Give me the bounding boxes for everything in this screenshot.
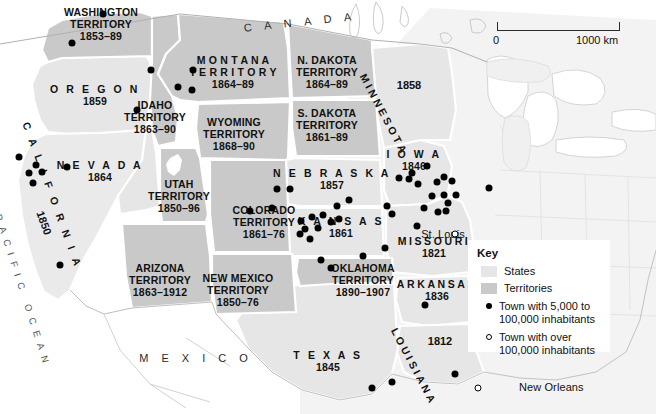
town-dot-small <box>443 208 450 215</box>
town-dot-small <box>57 262 64 269</box>
town-dot-small <box>320 212 327 219</box>
key-label-large-town: Town with over 100,000 inhabitants <box>499 331 602 358</box>
town-dot-small <box>328 265 335 272</box>
town-dot-small <box>429 193 436 200</box>
town-dot-large <box>475 385 482 392</box>
key-item-territories: Territories <box>477 282 602 295</box>
region-washington-territory <box>42 12 152 62</box>
town-dot-small <box>389 379 396 386</box>
town-dot-small <box>148 67 155 74</box>
town-dot-small <box>269 205 276 212</box>
key-item-states: States <box>477 265 602 278</box>
town-dot-small <box>307 236 314 243</box>
region-wyoming-territory <box>196 102 290 160</box>
key-title: Key <box>477 247 602 259</box>
town-dot-small <box>64 164 71 171</box>
region-nebraska <box>286 158 382 206</box>
region-minnesota <box>372 44 456 148</box>
town-dot-small <box>382 245 389 252</box>
key-label-small-town: Town with 5,000 to 100,000 inhabitants <box>499 300 602 327</box>
town-dot-small <box>406 176 413 183</box>
region-sdakota-territory <box>292 100 380 156</box>
town-dot-small <box>441 174 448 181</box>
town-dot-small <box>449 178 456 185</box>
town-dot-small <box>298 218 305 225</box>
region-colorado-territory <box>210 160 290 252</box>
town-dot-small <box>69 40 76 47</box>
region-missouri <box>386 196 474 276</box>
town-dot-small <box>415 181 422 188</box>
town-dot-small <box>16 154 23 161</box>
region-newmexico-territory <box>212 254 296 314</box>
town-dot-large <box>452 231 459 238</box>
town-dot-small <box>414 223 421 230</box>
town-dot-small <box>274 186 281 193</box>
town-dot-small <box>441 192 448 199</box>
town-dot-small <box>409 170 416 177</box>
town-dot-small <box>33 162 40 169</box>
region-arizona-territory <box>122 224 212 308</box>
region-arkansas <box>396 276 472 326</box>
region-oregon <box>32 56 152 134</box>
town-dot-small <box>396 175 403 182</box>
key-item-large-town: Town with over 100,000 inhabitants <box>477 331 602 358</box>
town-dot-small <box>346 197 353 204</box>
town-dot-small <box>421 205 428 212</box>
town-dot-small <box>318 257 325 264</box>
town-dot-small <box>26 170 33 177</box>
town-dot-small <box>247 208 254 215</box>
town-dot-small <box>309 214 316 221</box>
states-swatch-icon <box>481 266 497 277</box>
key-label-states: States <box>504 265 535 278</box>
town-dot-small <box>389 211 396 218</box>
key-item-small-town: Town with 5,000 to 100,000 inhabitants <box>477 300 602 327</box>
historical-map: 0 1000 km WASHINGTONTERRITORY1853–89O R … <box>0 0 656 414</box>
town-dot-small <box>453 192 460 199</box>
scale-end-label: 1000 km <box>576 34 618 46</box>
town-dot-small <box>486 185 493 192</box>
region-ndakota-territory <box>288 24 376 98</box>
scale-start-label: 0 <box>493 34 499 46</box>
town-dot-small <box>334 203 341 210</box>
town-dot-small <box>434 179 441 186</box>
town-dot-small <box>189 87 196 94</box>
town-dot-small <box>452 371 459 378</box>
key-label-territories: Territories <box>504 282 552 295</box>
town-dot-small <box>315 225 322 232</box>
town-dot-small <box>175 84 182 91</box>
town-dot-small <box>100 11 107 18</box>
region-utah-territory <box>160 148 208 222</box>
town-dot-small <box>297 231 304 238</box>
town-dot-small <box>190 67 197 74</box>
town-dot-small <box>134 107 141 114</box>
town-dot-small <box>39 169 46 176</box>
town-dot-small <box>360 253 367 260</box>
town-dot-small <box>336 216 343 223</box>
filled-dot-icon <box>481 303 497 309</box>
mexico-interior <box>104 314 230 408</box>
map-key: Key States Territories Town with 5,000 t… <box>468 240 610 352</box>
town-dot-small <box>384 203 391 210</box>
town-dot-small <box>445 200 452 207</box>
town-dot-small <box>424 163 431 170</box>
scale-bar <box>497 22 620 31</box>
open-dot-icon <box>481 334 497 340</box>
region-oklahoma-territory <box>296 258 394 286</box>
town-dot-small <box>328 219 335 226</box>
territories-swatch-icon <box>481 283 497 294</box>
town-dot-small <box>369 385 376 392</box>
town-dot-small <box>435 209 442 216</box>
town-dot-small <box>30 180 37 187</box>
town-dot-small <box>422 302 429 309</box>
town-dot-small <box>287 186 294 193</box>
